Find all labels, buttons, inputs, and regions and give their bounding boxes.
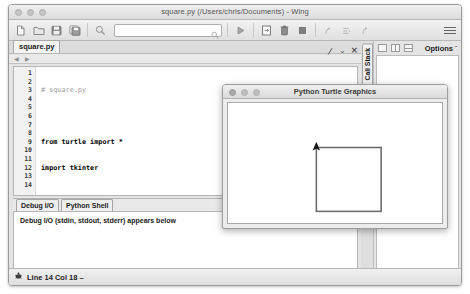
line-number: 14 xyxy=(14,181,35,190)
chevron-down-icon[interactable]: ⌄ xyxy=(339,47,346,55)
step-into-icon[interactable] xyxy=(259,23,274,38)
turtle-canvas[interactable] xyxy=(227,102,443,224)
options-label: Options xyxy=(425,44,453,53)
new-file-icon[interactable] xyxy=(13,23,28,38)
run-icon[interactable] xyxy=(233,23,248,38)
debug-step-over-icon[interactable] xyxy=(339,23,354,38)
debug-control-group xyxy=(259,23,310,38)
triple-pane-icon[interactable] xyxy=(404,44,413,52)
line-number: 9 xyxy=(14,138,35,147)
file-button-group xyxy=(13,23,82,38)
turtle-title-bar[interactable]: Python Turtle Graphics xyxy=(223,85,447,99)
toolbar-separator-1 xyxy=(87,23,88,37)
turtle-window-title: Python Turtle Graphics xyxy=(223,87,447,96)
line-number: 3 xyxy=(14,86,35,95)
stop-icon[interactable] xyxy=(295,23,310,38)
line-number: 13 xyxy=(14,172,35,181)
options-button[interactable]: Options ˇ xyxy=(425,44,457,53)
line-number: 7 xyxy=(14,121,35,130)
step-over-icon[interactable] xyxy=(277,23,292,38)
edit-mode-icon[interactable] xyxy=(327,42,334,60)
tab-python-shell[interactable]: Python Shell xyxy=(61,199,113,211)
turtle-icon xyxy=(14,272,23,282)
line-number: 6 xyxy=(14,112,35,121)
vtab-call-stack[interactable]: Call Stack xyxy=(362,43,373,85)
line-number: 4 xyxy=(14,95,35,104)
line-number: 8 xyxy=(14,129,35,138)
ide-window-title: square.py (/Users/chris/Documents) - Win… xyxy=(9,7,461,16)
line-number: 11 xyxy=(14,155,35,164)
ide-menu-icon[interactable] xyxy=(443,23,457,37)
line-number: 12 xyxy=(14,164,35,173)
split-pane-icon[interactable] xyxy=(391,44,400,52)
close-icon[interactable]: ✕ xyxy=(351,47,358,55)
editor-tab-tools: ⌄ ✕ xyxy=(327,42,358,60)
chevron-down-icon: ˇ xyxy=(455,45,457,51)
nav-next-icon[interactable]: ▶ xyxy=(25,56,30,62)
line-number: 10 xyxy=(14,146,35,155)
open-file-icon[interactable] xyxy=(31,23,46,38)
cursor-position-label: Line 14 Col 18 – xyxy=(27,273,84,282)
line-number-gutter: 1 2 3 4 5 6 7 8 9 10 11 12 13 14 xyxy=(14,67,36,195)
editor-nav-row: ◀ ▶ xyxy=(9,54,361,64)
ide-title-bar[interactable]: square.py (/Users/chris/Documents) - Win… xyxy=(9,5,461,20)
toolbar-separator-2 xyxy=(227,23,228,37)
save-icon[interactable] xyxy=(49,23,64,38)
screenshot-root: square.py (/Users/chris/Documents) - Win… xyxy=(0,0,470,294)
save-all-icon[interactable] xyxy=(67,23,82,38)
tools-panel-header: Options ˇ xyxy=(374,41,461,55)
python-turtle-graphics-window: Python Turtle Graphics xyxy=(222,84,448,229)
line-number: 1 xyxy=(14,69,35,78)
debug-step-group xyxy=(321,23,372,38)
ide-toolbar xyxy=(9,20,461,41)
debug-step-out-icon[interactable] xyxy=(357,23,372,38)
editor-tab-square-py[interactable]: square.py xyxy=(13,40,60,53)
editor-tab-strip: square.py ⌄ ✕ xyxy=(9,41,361,54)
toolbar-separator-4 xyxy=(315,23,316,37)
debug-continue-icon[interactable] xyxy=(321,23,336,38)
run-group xyxy=(233,23,248,38)
find-icon[interactable] xyxy=(93,23,108,38)
single-pane-icon[interactable] xyxy=(378,44,387,52)
line-number: 2 xyxy=(14,78,35,87)
status-bar: Line 14 Col 18 – xyxy=(9,268,461,285)
search-group xyxy=(93,23,222,38)
search-input[interactable] xyxy=(114,24,222,37)
nav-prev-icon[interactable]: ◀ xyxy=(14,56,19,62)
tab-debug-io[interactable]: Debug I/O xyxy=(16,199,59,211)
toolbar-separator-3 xyxy=(253,23,254,37)
line-number: 5 xyxy=(14,103,35,112)
turtle-drawing xyxy=(228,103,442,223)
